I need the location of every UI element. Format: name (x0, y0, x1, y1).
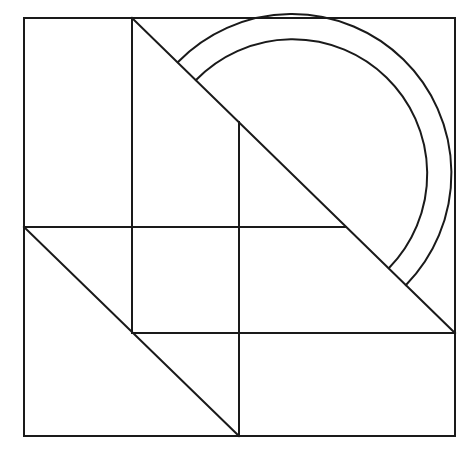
arc-inner (196, 39, 427, 268)
arc-group (178, 14, 451, 285)
arc-outer (178, 14, 451, 285)
geometric-diagram (0, 0, 476, 464)
